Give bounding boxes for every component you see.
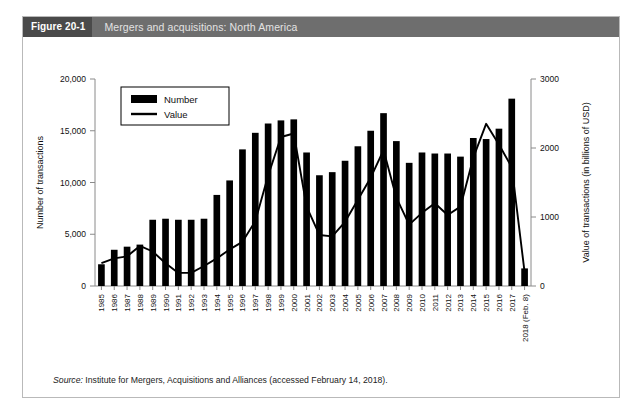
bar-1993 — [201, 219, 208, 286]
chart-plot-area: 05,00010,00015,00020,000Number of transa… — [23, 37, 621, 399]
svg-text:0: 0 — [540, 281, 545, 291]
svg-text:2014: 2014 — [469, 293, 478, 311]
figure-number-badge: Figure 20-1 — [23, 17, 92, 37]
svg-text:2011: 2011 — [431, 293, 440, 311]
bar-1988 — [137, 245, 144, 286]
svg-text:1985: 1985 — [97, 293, 106, 311]
svg-text:Number of transactions: Number of transactions — [35, 135, 45, 229]
source-note: Source: Institute for Mergers, Acquisiti… — [53, 375, 388, 385]
svg-text:1000: 1000 — [540, 212, 559, 222]
bar-2013 — [457, 157, 464, 286]
svg-text:1999: 1999 — [277, 293, 286, 311]
bar-2011 — [431, 154, 438, 286]
svg-text:2018 (Feb. 8): 2018 (Feb. 8) — [521, 294, 530, 342]
bar-2003 — [329, 172, 336, 286]
bar-2008 — [393, 141, 400, 286]
svg-text:2017: 2017 — [508, 293, 517, 311]
svg-text:1998: 1998 — [264, 293, 273, 311]
bar-2006 — [367, 131, 374, 286]
bar-2005 — [355, 146, 362, 286]
bar-1991 — [175, 220, 182, 286]
svg-text:2003: 2003 — [328, 293, 337, 311]
svg-text:1996: 1996 — [238, 293, 247, 311]
bar-1987 — [124, 247, 131, 286]
bar-1996 — [239, 149, 246, 286]
bar-1992 — [188, 220, 195, 286]
svg-text:2012: 2012 — [444, 293, 453, 311]
svg-text:3000: 3000 — [540, 74, 559, 84]
bar-2007 — [380, 113, 387, 286]
figure-container: Figure 20-1 Mergers and acquisitions: No… — [22, 16, 620, 398]
bar-2015 — [483, 139, 490, 286]
svg-text:0: 0 — [81, 281, 86, 291]
svg-text:15,000: 15,000 — [60, 126, 86, 136]
svg-text:2001: 2001 — [303, 293, 312, 311]
bar-1994 — [213, 195, 220, 286]
svg-text:1989: 1989 — [149, 293, 158, 311]
svg-text:1991: 1991 — [174, 293, 183, 311]
svg-text:2004: 2004 — [341, 293, 350, 311]
bar-2012 — [444, 154, 451, 286]
svg-text:Value of transactions (in bill: Value of transactions (in billions of US… — [581, 102, 591, 262]
svg-text:1997: 1997 — [251, 293, 260, 311]
bar-2001 — [303, 152, 310, 286]
y-axis-right: 0100020003000Value of transactions (in b… — [531, 74, 591, 291]
y-axis-left: 05,00010,00015,00020,000Number of transa… — [35, 74, 95, 291]
bar-2016 — [496, 129, 503, 286]
svg-text:1986: 1986 — [110, 293, 119, 311]
bar-1998 — [265, 124, 272, 286]
x-axis: 1985198619871988198919901991199219931994… — [95, 286, 531, 342]
svg-text:Number: Number — [164, 94, 198, 105]
bar-1986 — [111, 250, 118, 286]
bar-2010 — [419, 152, 426, 286]
svg-text:2000: 2000 — [290, 293, 299, 311]
svg-text:1990: 1990 — [162, 293, 171, 311]
svg-text:10,000: 10,000 — [60, 178, 86, 188]
svg-text:2000: 2000 — [540, 143, 559, 153]
svg-text:2016: 2016 — [495, 293, 504, 311]
svg-text:2006: 2006 — [367, 293, 376, 311]
svg-text:2013: 2013 — [456, 293, 465, 311]
svg-text:2005: 2005 — [354, 293, 363, 311]
bar-1985 — [98, 264, 105, 286]
svg-text:2010: 2010 — [418, 293, 427, 311]
svg-text:2008: 2008 — [392, 293, 401, 311]
svg-text:1995: 1995 — [226, 293, 235, 311]
source-label: Source: — [53, 375, 83, 385]
svg-text:20,000: 20,000 — [60, 74, 86, 84]
svg-text:2002: 2002 — [315, 293, 324, 311]
svg-text:1992: 1992 — [187, 293, 196, 311]
svg-text:2015: 2015 — [482, 293, 491, 311]
svg-text:1993: 1993 — [200, 293, 209, 311]
svg-text:1987: 1987 — [123, 293, 132, 311]
svg-text:2007: 2007 — [380, 293, 389, 311]
bar-1995 — [226, 180, 233, 286]
bar-1990 — [162, 219, 169, 286]
chart-legend: NumberValue — [121, 87, 229, 125]
svg-text:1988: 1988 — [136, 293, 145, 311]
figure-title: Mergers and acquisitions: North America — [92, 21, 297, 33]
svg-text:1994: 1994 — [213, 293, 222, 311]
figure-title-bar: Figure 20-1 Mergers and acquisitions: No… — [23, 17, 619, 37]
svg-text:2009: 2009 — [405, 293, 414, 311]
mergers-acquisitions-chart: 05,00010,00015,00020,000Number of transa… — [23, 37, 621, 399]
svg-text:5,000: 5,000 — [65, 229, 87, 239]
svg-text:Value: Value — [164, 109, 188, 120]
source-text: Institute for Mergers, Acquisitions and … — [83, 375, 388, 385]
